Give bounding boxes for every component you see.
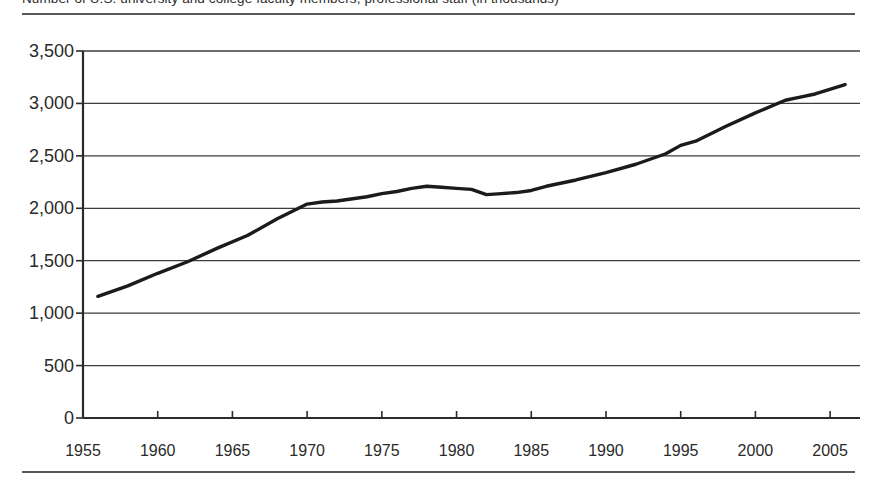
plot-area: 05001,0001,5002,0002,5003,0003,500 19551… — [0, 40, 877, 435]
x-axis-tick-label: 2005 — [812, 442, 848, 460]
data-series-line — [98, 85, 845, 297]
x-axis-tick-label: 1970 — [289, 442, 325, 460]
x-axis-tick-label: 1975 — [364, 442, 400, 460]
bottom-horizontal-rule — [22, 471, 855, 473]
chart-svg — [0, 40, 877, 435]
x-axis-tick-label: 1960 — [140, 442, 176, 460]
x-axis-tick-label: 1980 — [439, 442, 475, 460]
x-axis-tick-label: 1990 — [588, 442, 624, 460]
x-axis-tick-label: 1995 — [663, 442, 699, 460]
top-horizontal-rule — [22, 13, 855, 15]
x-axis-tick-label: 1985 — [513, 442, 549, 460]
x-axis-tick-label: 1965 — [215, 442, 251, 460]
figure-caption-clipped: Number of U.S. university and college fa… — [22, 0, 855, 7]
figure-container: Number of U.S. university and college fa… — [0, 0, 877, 488]
x-axis-tick-label: 2000 — [738, 442, 774, 460]
x-axis-tick-labels: 1955196019651970197519801985199019952000… — [0, 436, 877, 466]
x-axis-tick-label: 1955 — [65, 442, 101, 460]
gridlines — [76, 51, 860, 418]
figure-caption-text: Number of U.S. university and college fa… — [22, 0, 855, 7]
